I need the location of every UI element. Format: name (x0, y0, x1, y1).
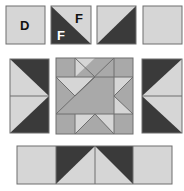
quilt-diagram: D F F (0, 0, 184, 191)
hst-light-dark (97, 6, 136, 44)
bottom-strip (17, 146, 172, 184)
left-flying-geese-panel (10, 59, 49, 133)
label-f-dark: F (57, 28, 65, 43)
right-flying-geese-panel (142, 59, 182, 133)
top-row: D F F (6, 6, 182, 44)
label-d: D (20, 18, 29, 33)
square-d: D (6, 6, 45, 44)
square-plain (143, 6, 182, 44)
label-f-light: F (75, 11, 83, 26)
center-star-block (56, 58, 133, 134)
hst-f: F F (51, 6, 91, 44)
